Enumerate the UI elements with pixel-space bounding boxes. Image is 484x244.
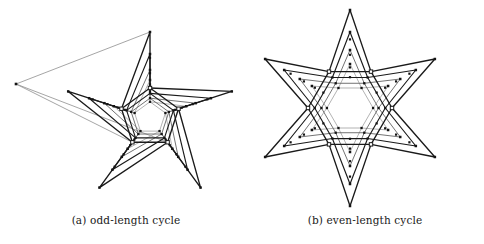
inner-hub-vertex <box>377 107 379 109</box>
spike-chain-dot <box>289 141 291 143</box>
spike-chain-dot <box>149 90 151 92</box>
spike-chain-dot <box>149 83 151 85</box>
spike-layer-0 <box>150 88 232 109</box>
spike-chain-dot <box>314 87 316 89</box>
outlier-edge <box>16 84 168 142</box>
inner-hub-vertex <box>372 107 374 109</box>
inner-hub-vertex <box>331 76 333 78</box>
inner-hub-vertex <box>337 127 339 129</box>
spike-chain-dot <box>395 80 397 82</box>
spike-vertex <box>67 90 70 93</box>
hub-vertex <box>306 106 309 109</box>
inner-hub-vertex <box>360 127 362 129</box>
spike-chain-dot <box>408 141 410 143</box>
spike-chain-dot <box>175 153 177 155</box>
inner-hub-vertex <box>160 133 162 135</box>
spike-vertex <box>299 136 302 139</box>
spike-vertex <box>210 97 213 100</box>
spike-vertex <box>434 58 437 61</box>
spike-chain-dot <box>124 109 126 111</box>
spike-chain-dot <box>384 87 386 89</box>
spike-vertex <box>415 69 418 72</box>
spike-vertex <box>88 97 91 100</box>
hub-polygon-layer-1 <box>315 77 386 138</box>
spike-vertex <box>399 78 402 81</box>
spike-chain-dot <box>92 98 94 100</box>
spike-vertex <box>111 169 114 172</box>
spike-chain-dot <box>192 103 194 105</box>
spike-vertex <box>149 69 152 72</box>
spike-vertex <box>349 151 352 154</box>
spike-vertex <box>434 156 437 159</box>
hub-vertex <box>177 107 180 110</box>
spike-vertex <box>311 129 314 132</box>
inner-hub-vertex <box>337 87 339 89</box>
spike-layer-0 <box>329 10 371 72</box>
inner-hub-vertex <box>137 133 139 135</box>
spike-vertex <box>231 90 234 93</box>
spike-chain-dot <box>322 92 324 94</box>
spike-vertex <box>349 31 352 34</box>
spike-chain-dot <box>133 138 135 140</box>
spike-chain-dot <box>289 73 291 75</box>
spike-vertex <box>194 102 197 105</box>
spike-layer-0 <box>121 32 150 109</box>
hub-vertex <box>131 141 134 144</box>
hub-polygon-layer-3 <box>327 88 373 128</box>
spike-vertex <box>98 186 101 189</box>
spike-chain-dot <box>149 72 151 74</box>
spike-chain-dot <box>165 138 167 140</box>
inner-hub-vertex <box>168 111 170 113</box>
inner-hub-vertex <box>314 107 316 109</box>
figure-board <box>0 0 484 244</box>
spike-vertex <box>103 102 106 105</box>
spike-chain-dot <box>181 107 183 109</box>
hub-vertex <box>369 143 372 146</box>
spike-chain-dot <box>376 122 378 124</box>
caption-panel-a: (a) odd-length cycle <box>0 214 252 226</box>
spike-vertex <box>177 156 180 159</box>
spike-vertex <box>149 79 152 82</box>
spike-chain-dot <box>303 80 305 82</box>
inner-hub-vertex <box>149 92 151 94</box>
spike-chain-dot <box>117 107 119 109</box>
hub-vertex <box>327 143 330 146</box>
spike-vertex <box>264 156 267 159</box>
spike-vertex <box>126 147 129 150</box>
spike-chain-dot <box>206 98 208 100</box>
spike-chain-dot <box>149 57 151 59</box>
spike-chain-dot <box>106 103 108 105</box>
spike-vertex <box>149 53 152 56</box>
spike-vertex <box>349 49 352 52</box>
spike-chain-dot <box>129 144 131 146</box>
spike-chain-dot <box>349 138 351 140</box>
spike-vertex <box>349 205 352 208</box>
spike-chain-dot <box>184 166 186 168</box>
spike-layer-0 <box>329 144 371 206</box>
spike-vertex <box>199 186 202 189</box>
odd-length-cycle-star <box>15 31 233 189</box>
inner-hub-vertex <box>326 107 328 109</box>
hub-vertex <box>390 106 393 109</box>
spike-chain-dot <box>303 134 305 136</box>
spike-vertex <box>349 9 352 12</box>
spike-chain-dot <box>174 109 176 111</box>
inner-hub-vertex <box>331 137 333 139</box>
spike-vertex <box>171 147 174 150</box>
spike-chain-dot <box>376 92 378 94</box>
spike-vertex <box>415 145 418 148</box>
inner-hub-vertex <box>158 130 160 132</box>
spike-chain-dot <box>114 166 116 168</box>
inner-hub-vertex <box>139 130 141 132</box>
even-length-cycle-star <box>264 9 436 208</box>
spike-vertex <box>349 63 352 66</box>
spike-chain-dot <box>314 127 316 129</box>
inner-hub-vertex <box>320 107 322 109</box>
spike-chain-dot <box>169 144 171 146</box>
inner-hub-vertex <box>149 97 151 99</box>
hub-vertex <box>369 70 372 73</box>
inner-hub-vertex <box>335 82 337 84</box>
inner-hub-vertex <box>384 107 386 109</box>
inner-hub-vertex <box>363 132 365 134</box>
inner-hub-vertex <box>164 112 166 114</box>
